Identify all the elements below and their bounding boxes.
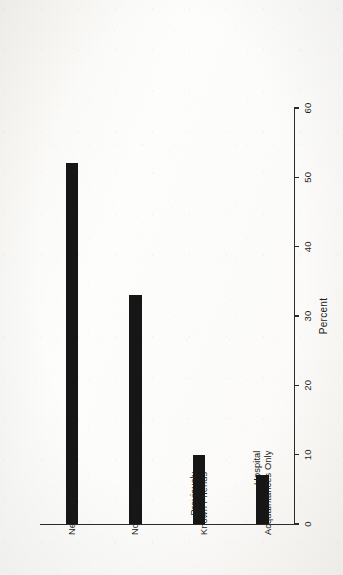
tick-label-0: 0 bbox=[302, 521, 313, 526]
value-axis-title: Percent bbox=[318, 298, 329, 335]
tick-mark bbox=[294, 523, 299, 524]
tick-label-50: 50 bbox=[302, 172, 313, 183]
chart-page: 0102030405060 New FriendsNo FriendsPrevi… bbox=[0, 0, 343, 575]
tick-label-60: 60 bbox=[302, 103, 313, 114]
category-label: New Friends bbox=[67, 482, 78, 535]
bar bbox=[66, 163, 79, 524]
rotated-chart-stage: 0102030405060 New FriendsNo FriendsPrevi… bbox=[0, 0, 343, 575]
tick-label-20: 20 bbox=[302, 380, 313, 391]
tick-label-40: 40 bbox=[302, 241, 313, 252]
tick-mark bbox=[294, 246, 299, 247]
tick-mark bbox=[294, 315, 299, 316]
tick-mark bbox=[294, 385, 299, 386]
bar-chart-plot: 0102030405060 New FriendsNo FriendsPrevi… bbox=[0, 0, 343, 575]
category-label: Hospital Acquaintances Only bbox=[252, 451, 273, 536]
category-label: Previously Known Friends bbox=[188, 472, 209, 535]
tick-label-10: 10 bbox=[302, 449, 313, 460]
category-label: No Friends bbox=[130, 489, 141, 535]
tick-mark bbox=[294, 107, 299, 108]
tick-label-30: 30 bbox=[302, 311, 313, 322]
tick-mark bbox=[294, 454, 299, 455]
tick-mark bbox=[294, 177, 299, 178]
